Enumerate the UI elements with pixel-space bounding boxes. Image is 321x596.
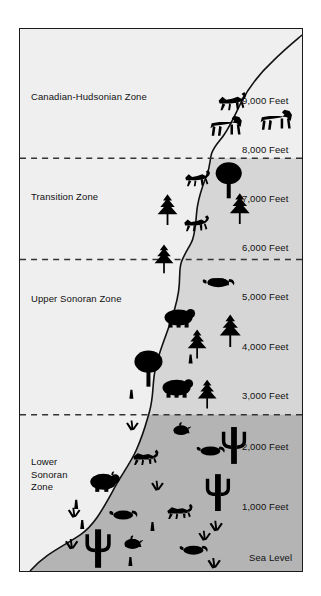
elevation-label-9000: 9,000 Feet bbox=[242, 95, 288, 106]
elevation-label-sea-level: Sea Level bbox=[249, 552, 292, 563]
zone-label-lower-sonoran: Lower Sonoran Zone bbox=[31, 456, 68, 494]
elevation-label-3000: 3,000 Feet bbox=[242, 390, 288, 401]
elevation-label-2000: 2,000 Feet bbox=[242, 441, 288, 452]
zone-label-canadian-hudsonian: Canadian-Hudsonian Zone bbox=[31, 91, 147, 104]
zone-label-upper-sonoran: Upper Sonoran Zone bbox=[31, 293, 122, 306]
zone-label-transition: Transition Zone bbox=[31, 191, 98, 204]
elevation-label-1000: 1,000 Feet bbox=[242, 501, 288, 512]
elevation-label-4000: 4,000 Feet bbox=[242, 341, 288, 352]
elevation-label-5000: 5,000 Feet bbox=[242, 291, 288, 302]
diagram-frame: Ecozones of the Cahuilla bbox=[19, 28, 303, 572]
ecozone-diagram: Ecozones of the Cahuilla bbox=[0, 0, 321, 596]
elevation-label-8000: 8,000 Feet bbox=[242, 144, 288, 155]
elevation-label-6000: 6,000 Feet bbox=[242, 242, 288, 253]
elevation-label-7000: 7,000 Feet bbox=[242, 193, 288, 204]
